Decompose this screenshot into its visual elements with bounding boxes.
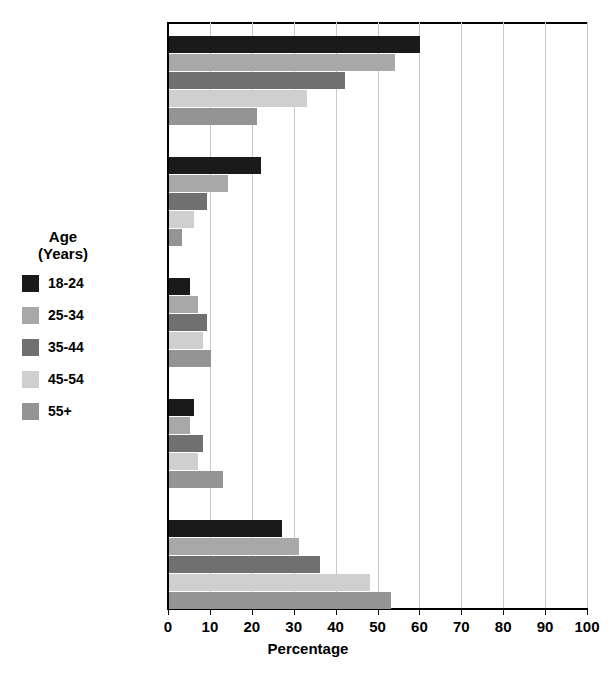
tick-mark [587,608,588,615]
bar[interactable] [169,193,207,210]
legend-swatch-icon [22,371,39,388]
x-tick-label: 20 [232,618,272,635]
legend-swatch-icon [22,339,39,356]
legend-item[interactable]: 55+ [22,402,142,421]
x-tick-label: 0 [148,618,188,635]
bar[interactable] [169,471,223,488]
bar[interactable] [169,36,420,53]
legend-item-label: 35-44 [48,339,84,356]
x-tick-label: 10 [190,618,230,635]
tick-mark [419,608,420,615]
bar[interactable] [169,417,190,434]
tick-mark [545,608,546,615]
bar[interactable] [169,574,370,591]
legend-item[interactable]: 45-54 [22,370,142,389]
bar-group [169,520,391,610]
legend-item[interactable]: 35-44 [22,338,142,357]
bar[interactable] [169,538,299,555]
x-tick-label: 30 [274,618,314,635]
legend-item[interactable]: 25-34 [22,306,142,325]
x-tick-label: 80 [483,618,523,635]
bar-group [169,399,223,489]
x-tick-label: 50 [358,618,398,635]
bar[interactable] [169,175,228,192]
legend-swatch-icon [22,403,39,420]
gridline [545,22,546,608]
bar-group [169,36,420,126]
bar[interactable] [169,556,320,573]
bar[interactable] [169,108,257,125]
bar[interactable] [169,314,207,331]
legend-item-label: 25-34 [48,307,84,324]
bar[interactable] [169,350,211,367]
bar-group [169,278,211,368]
x-tick-label: 100 [567,618,607,635]
bar-chart: Age (Years) 18-2425-3435-4445-5455+ 0102… [0,0,616,684]
legend-swatch-icon [22,275,39,292]
bar[interactable] [169,90,307,107]
legend-item-label: 18-24 [48,275,84,292]
bar[interactable] [169,332,203,349]
bar[interactable] [169,54,395,71]
legend-title: Age (Years) [22,228,104,262]
bar[interactable] [169,278,190,295]
x-tick-label: 70 [441,618,481,635]
bar-group [169,157,261,247]
chart-legend: Age (Years) 18-2425-3435-4445-5455+ [22,228,142,434]
bar[interactable] [169,399,194,416]
legend-item[interactable]: 18-24 [22,274,142,293]
x-tick-label: 40 [316,618,356,635]
gridline [503,22,504,608]
bar[interactable] [169,296,198,313]
gridline [461,22,462,608]
bar[interactable] [169,592,391,609]
tick-mark [461,608,462,615]
bar[interactable] [169,453,198,470]
legend-swatch-icon [22,307,39,324]
gridline [587,22,588,608]
legend-item-label: 45-54 [48,371,84,388]
x-tick-label: 60 [399,618,439,635]
bar[interactable] [169,435,203,452]
plot-area: 0102030405060708090100 OnlineSocial Medi… [167,22,588,608]
bar[interactable] [169,72,345,89]
bar[interactable] [169,229,182,246]
legend-item-label: 55+ [48,403,72,420]
x-tick-label: 90 [525,618,565,635]
bar[interactable] [169,211,194,228]
bar[interactable] [169,157,261,174]
tick-mark [503,608,504,615]
x-axis-title: Percentage [0,640,616,657]
bar[interactable] [169,520,282,537]
legend-item-list: 18-2425-3435-4445-5455+ [22,274,142,421]
